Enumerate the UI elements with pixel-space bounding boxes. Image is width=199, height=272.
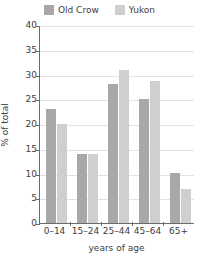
- y-axis-tick-label: 30: [15, 71, 37, 80]
- legend-label-old-crow: Old Crow: [58, 5, 99, 15]
- x-axis-title: years of age: [39, 243, 194, 253]
- y-axis-tick-mark: [36, 51, 40, 52]
- y-axis-tick-labels: 0510152025303540: [11, 26, 37, 224]
- bar: [150, 81, 161, 223]
- bar-chart-figure: Old Crow Yukon % of total 05101520253035…: [0, 0, 199, 272]
- legend-swatch-old-crow: [44, 5, 54, 15]
- y-axis-tick-label: 25: [15, 95, 37, 104]
- y-axis-tick-mark: [36, 76, 40, 77]
- bar: [57, 124, 68, 223]
- x-axis-tick-label: 65+: [163, 226, 194, 237]
- plot-area: [39, 26, 194, 224]
- bar: [170, 173, 181, 223]
- x-axis-tick-label: 0–14: [39, 226, 70, 237]
- y-axis-tick-mark: [36, 125, 40, 126]
- y-axis-tick-mark: [36, 175, 40, 176]
- y-axis-tick-label: 0: [15, 219, 37, 228]
- y-axis-tick-label: 10: [15, 170, 37, 179]
- bar-group: [41, 26, 72, 223]
- bar: [119, 70, 130, 223]
- bar-group: [103, 26, 134, 223]
- bar: [46, 109, 57, 223]
- bar: [108, 84, 119, 223]
- y-axis-title: % of total: [0, 103, 10, 147]
- y-axis-tick-label: 5: [15, 194, 37, 203]
- y-axis-tick-mark: [36, 26, 40, 27]
- x-axis-tick-label: 15–24: [70, 226, 101, 237]
- x-axis-tick-label: 25–44: [101, 226, 132, 237]
- legend-item-old-crow: Old Crow: [44, 5, 99, 15]
- y-axis-tick-label: 15: [15, 145, 37, 154]
- legend-label-yukon: Yukon: [129, 5, 155, 15]
- y-axis-tick-mark: [36, 224, 40, 225]
- x-axis-tick-mark: [163, 222, 164, 226]
- bars-layer: [41, 26, 194, 223]
- x-axis-tick-label: 45–64: [132, 226, 163, 237]
- bar-group: [134, 26, 165, 223]
- x-axis-tick-mark: [101, 222, 102, 226]
- bar: [181, 189, 192, 223]
- bar: [77, 154, 88, 223]
- bar: [139, 99, 150, 223]
- bar-group: [72, 26, 103, 223]
- y-axis-tick-mark: [36, 199, 40, 200]
- legend-swatch-yukon: [115, 5, 125, 15]
- legend-item-yukon: Yukon: [115, 5, 155, 15]
- x-axis-tick-mark: [70, 222, 71, 226]
- chart-legend: Old Crow Yukon: [0, 5, 199, 15]
- x-axis-tick-mark: [132, 222, 133, 226]
- y-axis-tick-mark: [36, 150, 40, 151]
- y-axis-tick-label: 35: [15, 46, 37, 55]
- y-axis-tick-label: 40: [15, 21, 37, 30]
- x-axis-tick-labels: 0–1415–2425–4445–6465+: [39, 226, 194, 240]
- y-axis-tick-mark: [36, 100, 40, 101]
- bar: [88, 154, 99, 223]
- bar-group: [165, 26, 196, 223]
- y-axis-tick-label: 20: [15, 120, 37, 129]
